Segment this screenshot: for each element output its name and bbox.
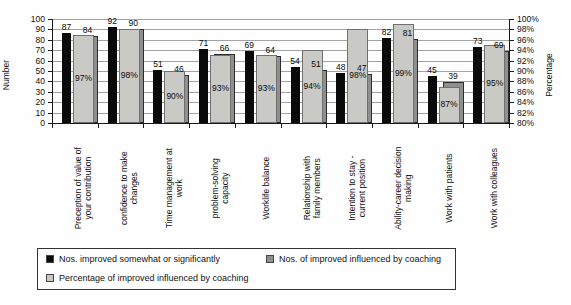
- right-axis-tick-label: 82%: [517, 109, 547, 118]
- right-axis-tick: [510, 61, 514, 62]
- chart-legend: Nos. improved somewhat or significantly …: [37, 248, 456, 290]
- left-axis-tick: [48, 102, 52, 103]
- left-axis-tick: [48, 40, 52, 41]
- value-label-percentage: 90%: [162, 92, 187, 101]
- legend-swatch-improved: [46, 255, 54, 263]
- value-label-improved: 82: [376, 28, 397, 37]
- x-axis-tick: [463, 124, 464, 128]
- x-axis-tick: [189, 124, 190, 128]
- left-axis-tick: [48, 61, 52, 62]
- legend-item-percentage: Percentage of improved influenced by coa…: [46, 273, 249, 283]
- bar-improved: [199, 49, 208, 123]
- left-axis-tick: [48, 29, 52, 30]
- left-axis-tick-label: 90: [20, 25, 45, 34]
- category-label: problem-solvingcapacity: [210, 129, 230, 247]
- x-axis-tick: [52, 124, 53, 128]
- left-axis-tick-label: 80: [20, 36, 45, 45]
- bar-improved: [245, 51, 254, 123]
- left-axis-tick-label: 60: [20, 57, 45, 66]
- category-label: Intention to stay -current position: [347, 129, 367, 247]
- bar-improved: [428, 76, 437, 123]
- left-axis-tick: [48, 19, 52, 20]
- category-label: Work with patients: [444, 129, 454, 247]
- coaching-impact-bar-chart: Number Percentage Nos. improved somewhat…: [0, 0, 571, 305]
- value-label-percentage: 98%: [345, 71, 370, 80]
- value-label-improved: 71: [193, 39, 214, 48]
- right-axis-tick: [510, 50, 514, 51]
- value-label-improved: 87: [56, 23, 77, 32]
- legend-label-coached: Nos. of improved influenced by coaching: [279, 254, 441, 264]
- category-label: Worklife balance: [261, 129, 271, 247]
- value-label-improved: 54: [285, 57, 306, 66]
- x-axis-tick: [98, 124, 99, 128]
- value-label-improved: 69: [239, 41, 260, 50]
- right-axis-tick-label: 86%: [517, 88, 547, 97]
- value-label-coached: 64: [260, 46, 281, 55]
- right-axis-tick-label: 94%: [517, 46, 547, 55]
- right-axis-tick: [510, 102, 514, 103]
- right-axis-tick: [510, 40, 514, 41]
- bar-improved: [108, 27, 117, 123]
- legend-row-2: Percentage of improved influenced by coa…: [38, 268, 455, 287]
- value-label-improved: 45: [422, 66, 443, 75]
- right-axis-tick-label: 92%: [517, 57, 547, 66]
- legend-label-percentage: Percentage of improved influenced by coa…: [59, 273, 249, 283]
- value-label-improved: 92: [102, 17, 123, 26]
- category-label: Time management atwork: [164, 129, 184, 247]
- left-axis-tick: [48, 113, 52, 114]
- value-label-percentage: 93%: [254, 84, 279, 93]
- left-axis-title: Number: [1, 52, 11, 98]
- right-axis-tick: [510, 29, 514, 30]
- bar-improved: [382, 38, 391, 123]
- right-axis-tick-label: 80%: [517, 119, 547, 128]
- bar-improved: [291, 67, 300, 123]
- value-label-percentage: 93%: [208, 84, 233, 93]
- value-label-percentage: 87%: [437, 100, 462, 109]
- value-label-coached: 69: [488, 41, 509, 50]
- legend-item-improved: Nos. improved somewhat or significantly: [46, 254, 220, 264]
- right-axis-tick: [510, 92, 514, 93]
- right-axis-tick-label: 96%: [517, 36, 547, 45]
- x-axis-tick: [326, 124, 327, 128]
- left-axis-tick: [48, 71, 52, 72]
- bar-improved: [473, 47, 482, 123]
- x-axis-tick: [372, 124, 373, 128]
- value-label-coached: 84: [77, 26, 98, 35]
- x-axis-tick: [281, 124, 282, 128]
- x-axis-tick: [235, 124, 236, 128]
- left-axis-tick-label: 70: [20, 46, 45, 55]
- left-axis-tick-label: 30: [20, 88, 45, 97]
- value-label-improved: 73: [467, 37, 488, 46]
- right-axis-tick: [510, 123, 514, 124]
- category-label: Relationship withfamily members: [301, 129, 321, 247]
- value-label-coached: 90: [123, 19, 144, 28]
- right-axis-tick-label: 100%: [517, 15, 547, 24]
- right-axis-tick: [510, 81, 514, 82]
- right-axis-tick-label: 90%: [517, 67, 547, 76]
- bar-improved: [153, 70, 162, 123]
- right-axis-tick: [510, 113, 514, 114]
- value-label-percentage: 94%: [300, 82, 325, 91]
- value-label-percentage: 99%: [391, 69, 416, 78]
- category-label: Ability-career decisionmaking: [393, 129, 413, 247]
- value-label-percentage: 97%: [71, 74, 96, 83]
- value-label-improved: 51: [147, 60, 168, 69]
- left-axis-tick: [48, 81, 52, 82]
- left-axis-tick-label: 10: [20, 109, 45, 118]
- x-axis-tick: [143, 124, 144, 128]
- left-axis-tick-label: 40: [20, 77, 45, 86]
- left-axis-tick-label: 100: [20, 15, 45, 24]
- category-label: Work with colleagues: [489, 129, 499, 247]
- value-label-coached: 81: [397, 29, 418, 38]
- x-axis-tick: [509, 124, 510, 128]
- value-label-percentage: 95%: [482, 79, 507, 88]
- value-label-percentage: 98%: [117, 71, 142, 80]
- legend-row-1: Nos. improved somewhat or significantly …: [38, 249, 455, 268]
- legend-item-coached: Nos. of improved influenced by coaching: [266, 254, 441, 264]
- category-label: confidence to makechanges: [119, 129, 139, 247]
- left-axis-tick: [48, 50, 52, 51]
- right-axis-tick-label: 98%: [517, 25, 547, 34]
- legend-label-improved: Nos. improved somewhat or significantly: [59, 254, 220, 264]
- left-axis-tick-label: 0: [20, 119, 45, 128]
- left-axis-tick-label: 20: [20, 98, 45, 107]
